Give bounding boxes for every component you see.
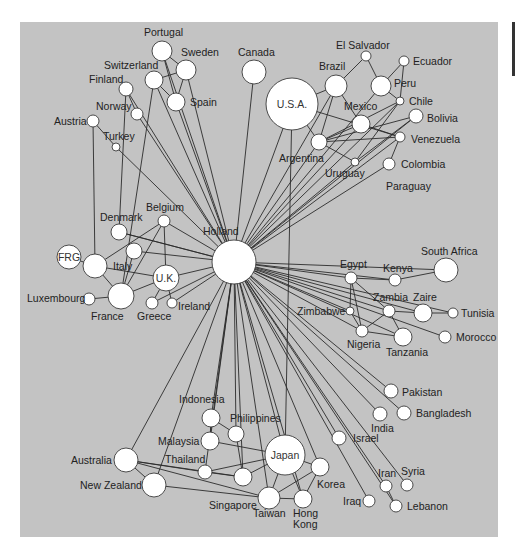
label-spain: Spain	[190, 96, 217, 108]
node-bangladesh	[397, 406, 411, 420]
node-holland	[212, 240, 256, 284]
node-nigeria	[356, 325, 368, 337]
node-norway	[131, 108, 143, 120]
node-venezuela	[395, 132, 405, 142]
node-colombia	[383, 158, 395, 170]
node-israel	[332, 431, 346, 445]
edge-new_zealand-taiwan	[154, 485, 269, 498]
label-denmark: Denmark	[100, 211, 143, 223]
node-ireland	[167, 298, 177, 308]
label-paraguay: Paraguay	[386, 180, 432, 192]
node-india	[373, 407, 387, 421]
node-switzerland	[145, 71, 163, 89]
node-chile	[396, 97, 404, 105]
node-singapore	[234, 468, 252, 486]
node-spain	[167, 93, 185, 111]
node-tunisia	[448, 308, 458, 318]
label-pakistan: Pakistan	[402, 386, 442, 398]
label-finland: Finland	[89, 73, 124, 85]
label-singapore: Singapore	[209, 499, 257, 511]
node-austria	[87, 115, 99, 127]
label-israel: Israel	[353, 432, 379, 444]
label-belgium: Belgium	[146, 201, 184, 213]
label-greece: Greece	[137, 310, 172, 322]
node-south-africa	[434, 258, 458, 282]
edge-holland-chile	[234, 101, 400, 262]
node-new-zealand	[142, 473, 166, 497]
label-australia: Australia	[71, 454, 112, 466]
node-canada	[242, 60, 266, 84]
label-frg: FRG	[58, 251, 80, 263]
label-japan: Japan	[271, 449, 300, 461]
node-zaire	[414, 304, 432, 322]
label-holland: Holland	[203, 225, 239, 237]
label-chile: Chile	[409, 95, 433, 107]
node-peru	[371, 76, 391, 96]
node-el-salvador	[361, 51, 371, 61]
label-uruguay: Uruguay	[325, 167, 365, 179]
edge-holland-australia	[126, 262, 234, 460]
label-morocco: Morocco	[456, 331, 496, 343]
node-morocco	[439, 331, 451, 343]
label-bangladesh: Bangladesh	[416, 407, 472, 419]
label-hong-kong-line2: Kong	[293, 518, 318, 530]
edge-holland-mexico	[234, 124, 361, 262]
edge-holland-norway	[137, 114, 234, 262]
label-iran: Iran	[378, 467, 396, 479]
node-thailand	[198, 465, 212, 479]
node-pakistan	[384, 384, 398, 398]
node-sweden	[176, 60, 196, 80]
node-korea	[311, 458, 329, 476]
label-el-salvador: El Salvador	[336, 39, 390, 51]
label-nigeria: Nigeria	[347, 338, 380, 350]
edge-holland-new_zealand	[154, 262, 234, 485]
node-uruguay	[351, 158, 359, 166]
label-kenya: Kenya	[383, 262, 413, 274]
label-france: France	[91, 310, 124, 322]
label-italy: Italy	[113, 260, 133, 272]
label-portugal: Portugal	[144, 26, 183, 38]
edge-holland-colombia	[234, 164, 389, 262]
node-denmark	[111, 224, 127, 240]
label-egypt: Egypt	[340, 258, 367, 270]
label-ireland: Ireland	[178, 300, 210, 312]
label-bolivia: Bolivia	[427, 112, 458, 124]
node-iran	[380, 480, 392, 492]
node-france	[108, 283, 134, 309]
node-malaysia	[201, 432, 219, 450]
label-taiwan: Taiwan	[253, 507, 286, 519]
node-italy	[83, 254, 107, 278]
label-venezuela: Venezuela	[411, 133, 460, 145]
node-mexico	[352, 115, 370, 133]
label-tunisia: Tunisia	[461, 307, 495, 319]
label-sweden: Sweden	[181, 46, 219, 58]
edge-holland-japan	[234, 262, 285, 455]
node-bolivia	[409, 109, 423, 123]
label-indonesia: Indonesia	[179, 393, 225, 405]
node-australia	[114, 448, 138, 472]
label-norway: Norway	[96, 100, 132, 112]
label-philippines: Philippines	[230, 412, 281, 424]
label-brazil: Brazil	[319, 60, 345, 72]
label-switzerland: Switzerland	[104, 59, 158, 71]
trade-network-diagram: HollandPortugalSwedenSwitzerlandFinlandS…	[0, 0, 516, 553]
label-iraq: Iraq	[343, 495, 361, 507]
node-kenya	[389, 274, 401, 286]
node-syria	[401, 479, 413, 491]
node-hong-kong	[294, 490, 312, 508]
label-zimbabwe: Zimbabwe	[297, 305, 346, 317]
label-malaysia: Malaysia	[158, 435, 200, 447]
node-lebanon	[390, 500, 402, 512]
label-thailand: Thailand	[165, 453, 205, 465]
node-zambia	[383, 305, 395, 317]
node-belgium	[158, 215, 170, 227]
node-portugal	[152, 41, 172, 61]
label-korea: Korea	[317, 478, 345, 490]
label-argentina: Argentina	[279, 152, 324, 164]
node-indonesia	[202, 409, 220, 427]
label-peru: Peru	[394, 77, 416, 89]
label-zambia: Zambia	[373, 291, 408, 303]
node-ecuador	[399, 56, 409, 66]
node-tanzania	[394, 328, 412, 346]
label-zaire: Zaire	[413, 291, 437, 303]
